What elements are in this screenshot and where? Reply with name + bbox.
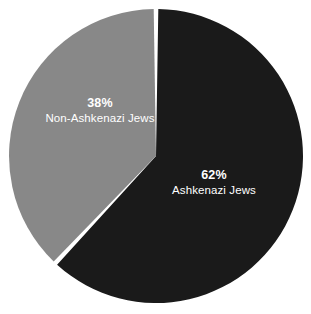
pie-chart: 38% Non-Ashkenazi Jews 62% Ashkenazi Jew… (0, 0, 311, 314)
pie-slices (9, 9, 303, 303)
pie-chart-canvas (0, 0, 311, 314)
